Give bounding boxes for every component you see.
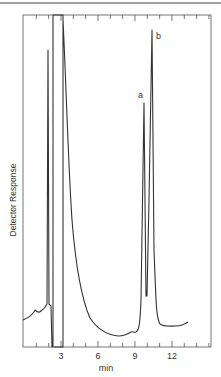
x-tick-label-3: 3 — [58, 351, 63, 361]
x-tick-label-6: 6 — [95, 351, 100, 361]
peak-b-label: b — [156, 31, 161, 41]
plot-frame — [23, 15, 211, 347]
y-axis-title: Detector Response — [8, 163, 18, 236]
chromatogram-chart: a b 3 6 9 12 min Detector Response — [0, 0, 221, 377]
peak-a-label: a — [138, 90, 143, 100]
x-tick-label-12: 12 — [167, 351, 177, 361]
bottom-axis-ticks — [36, 341, 209, 347]
x-axis-title: min — [99, 363, 114, 373]
chromatogram-trace — [23, 15, 188, 347]
top-axis-ticks — [36, 15, 209, 21]
x-tick-label-9: 9 — [132, 351, 137, 361]
